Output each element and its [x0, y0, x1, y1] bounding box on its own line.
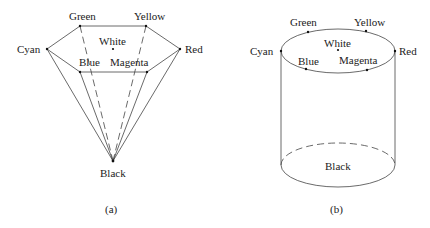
- point-cyan: [46, 48, 48, 50]
- caption-b: (b): [330, 203, 343, 216]
- label-white-b: White: [324, 37, 351, 49]
- point-blue-b: [305, 68, 307, 70]
- caption-a: (a): [105, 203, 118, 216]
- panel-b-cylinder: Green Yellow Cyan Red White Blue Magenta…: [250, 16, 417, 216]
- color-model-figure: Green Yellow Cyan Red White Blue Magenta…: [0, 0, 430, 228]
- label-red-b: Red: [399, 45, 417, 57]
- edge-magenta-black: [113, 72, 147, 161]
- point-yellow-b: [365, 30, 367, 32]
- point-yellow: [145, 25, 147, 27]
- point-cyan-b: [280, 50, 282, 52]
- point-blue: [79, 71, 81, 73]
- label-magenta-b: Magenta: [339, 54, 378, 66]
- label-yellow: Yellow: [134, 10, 165, 22]
- label-green-b: Green: [290, 16, 317, 28]
- label-green: Green: [69, 10, 96, 22]
- label-white: White: [99, 35, 126, 47]
- label-cyan: Cyan: [17, 43, 41, 55]
- point-red-b: [394, 50, 396, 52]
- label-magenta: Magenta: [110, 56, 149, 68]
- label-black-b: Black: [325, 160, 351, 172]
- panel-a-hexcone: Green Yellow Cyan Red White Blue Magenta…: [17, 10, 203, 216]
- label-red: Red: [185, 43, 203, 55]
- label-black: Black: [100, 167, 126, 179]
- label-yellow-b: Yellow: [354, 16, 385, 28]
- point-green-b: [307, 31, 309, 33]
- point-green: [79, 25, 81, 27]
- point-black: [112, 160, 115, 163]
- point-white: [112, 48, 114, 50]
- point-white-b: [337, 49, 339, 51]
- label-blue-b: Blue: [298, 55, 319, 67]
- label-blue: Blue: [79, 56, 100, 68]
- point-magenta: [146, 71, 148, 73]
- label-cyan-b: Cyan: [250, 45, 274, 57]
- edge-blue-black: [80, 72, 113, 161]
- point-magenta-b: [366, 69, 368, 71]
- point-red: [179, 48, 181, 50]
